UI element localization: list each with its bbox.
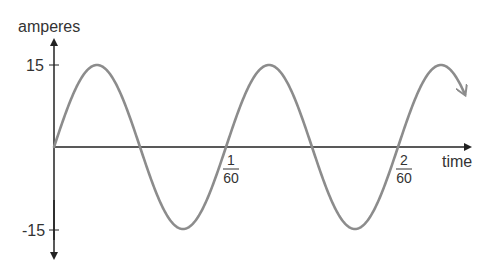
- y-tick-label-15: 15: [26, 57, 44, 74]
- x-tick-label-1-60: 1 60: [223, 152, 239, 186]
- y-axis-label: amperes: [18, 18, 80, 35]
- y-tick-label-neg15: -15: [22, 222, 45, 239]
- x-tick-label-2-60: 2 60: [396, 152, 412, 186]
- svg-text:1: 1: [227, 152, 235, 168]
- sine-current-chart: amperes 15 -15 time 1 60 2 60: [0, 0, 487, 273]
- svg-text:2: 2: [400, 152, 408, 168]
- svg-text:60: 60: [396, 170, 412, 186]
- svg-text:60: 60: [223, 170, 239, 186]
- x-axis-label: time: [442, 153, 472, 170]
